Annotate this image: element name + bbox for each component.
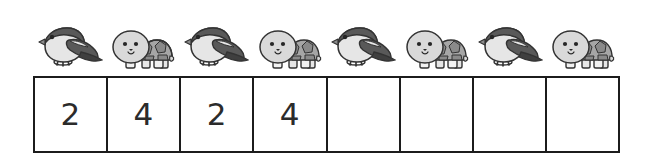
turtle-icon	[550, 20, 616, 72]
sequence-item-7	[473, 4, 546, 72]
turtle-icon	[257, 20, 323, 72]
answer-cell-3[interactable]: 2	[181, 78, 254, 151]
bird-icon	[330, 10, 396, 72]
sequence-item-2	[106, 4, 179, 72]
answer-cell-6[interactable]	[401, 78, 474, 151]
sequence-item-4	[253, 4, 326, 72]
sequence-item-6	[400, 4, 473, 72]
bird-icon	[183, 10, 249, 72]
turtle-icon	[404, 20, 470, 72]
worksheet-canvas: 2 4 2 4	[0, 0, 652, 167]
animal-sequence-row	[33, 4, 620, 72]
answer-boxes-row: 2 4 2 4	[33, 76, 620, 153]
answer-cell-7[interactable]	[474, 78, 547, 151]
answer-cell-5[interactable]	[328, 78, 401, 151]
bird-icon	[37, 10, 103, 72]
sequence-item-8	[547, 4, 620, 72]
answer-cell-4[interactable]: 4	[254, 78, 327, 151]
answer-cell-1[interactable]: 2	[35, 78, 108, 151]
sequence-item-3	[180, 4, 253, 72]
answer-cell-8[interactable]	[547, 78, 618, 151]
answer-cell-2[interactable]: 4	[108, 78, 181, 151]
sequence-item-1	[33, 4, 106, 72]
turtle-icon	[110, 20, 176, 72]
bird-icon	[477, 10, 543, 72]
sequence-item-5	[327, 4, 400, 72]
